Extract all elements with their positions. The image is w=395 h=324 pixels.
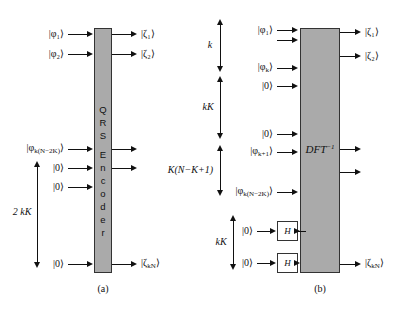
panel-a-output-arrow-5 [131,261,137,267]
panel-a-input-wire-2 [68,54,88,55]
panel-a-input-arrow-2 [87,51,93,57]
panel-a-output-wire-2 [112,54,132,55]
panel-b-h2-in-wire [257,263,271,264]
panel-b-input-arrow-3 [292,83,298,89]
panel-a-input-zero-1: |0⟩ [53,163,64,173]
panel-b-input-arrow-1b [292,37,298,43]
panel-a-output-zeta-1: |ζ₁⟩ [141,29,155,39]
panel-b-brace-kK-upper-line [220,79,221,135]
panel-b-h1-out-arrow [294,228,300,234]
panel-a-brace-2kK-bottom-cap [34,262,40,268]
panel-b-input-wire-1 [277,30,293,31]
panel-a-brace-2kK-line [37,164,38,264]
qrs-encoder-letter-r: r [95,227,111,238]
panel-b-brace-knk1-line [220,148,221,192]
panel-b-output-zeta-kn-sub: kN [371,262,380,270]
panel-b-input-phi-k1-sub: k+1 [258,150,269,158]
panel-a-input-zero-3: |0⟩ [53,259,64,269]
qrs-encoder-letter-R: R [95,117,111,128]
panel-a-input-zero-2: |0⟩ [53,182,64,192]
panel-b-input-zero-1: |0⟩ [262,81,273,91]
panel-a-input-phi-kn2k-sub: k(N−2K) [34,147,60,155]
panel-b-brace-kK-lower-line [233,218,234,266]
panel-a-output-arrow-1 [131,31,137,37]
panel-a-output-zeta-2: |ζ₂⟩ [141,49,155,59]
panel-b-input-arrow-1 [292,27,298,33]
qrs-encoder-letter-Q: Q [95,104,111,115]
panel-b-h2-out-arrow [294,260,300,266]
panel-b-brace-k-bottom-cap [217,66,223,72]
panel-b-input-wire-6 [277,192,293,193]
panel-b-output-wire-4 [340,172,356,173]
panel-a-input-phi-1: |φ₁⟩ [49,29,64,39]
panel-b-output-arrow-1 [355,29,361,35]
panel-a-input-arrow-6 [87,261,93,267]
panel-b-input-zero-h2: |0⟩ [242,258,253,268]
panel-b-output-wire-3 [340,149,356,150]
qrs-encoder-letter-o: o [95,188,111,199]
panel-a-input-wire-5 [68,187,88,188]
panel-b-input-arrow-5 [292,149,298,155]
panel-b-output-zeta-kn: |ζkN⟩ [365,258,384,270]
panel-a-input-wire-1 [68,34,88,35]
panel-b-input-phi-kn2k: |φk(N−2K)⟩ [235,186,273,198]
panel-b-input-wire-3 [277,86,293,87]
hadamard-gate-2-label: H [284,258,291,268]
panel-a-brace-2kK-label: 2 kK [13,207,32,217]
panel-a-output-arrow-4 [131,165,137,171]
panel-a-input-phi-2: |φ₂⟩ [49,49,64,59]
panel-b-input-wire-4 [277,134,293,135]
panel-b-output-arrow-3 [355,146,361,152]
qrs-encoder-letter-d: d [95,201,111,212]
panel-b-output-arrow-5 [355,261,361,267]
panel-b-input-wire-1b [277,40,293,41]
panel-b-brace-kK-upper-label: kK [202,102,213,112]
panel-b-input-arrow-6 [292,189,298,195]
dft-inverse-exponent: −1 [326,143,334,151]
panel-a-caption: (a) [97,283,108,294]
panel-b-h1-in-arrow [270,228,276,234]
panel-b-input-phi-kn2k-sub: k(N−2K) [243,190,269,198]
panel-a-input-wire-4 [68,168,88,169]
panel-a-input-phi-kn2k: |φk(N−2K)⟩ [26,143,64,155]
panel-b-output-wire-5 [340,264,356,265]
panel-a-input-arrow-3 [87,146,93,152]
panel-a-input-arrow-4 [87,165,93,171]
panel-b-input-zero-2: |0⟩ [262,129,273,139]
panel-b-brace-knk1-bottom-cap [217,190,223,196]
panel-b-input-arrow-4 [292,131,298,137]
panel-a-output-arrow-3 [131,146,137,152]
dft-inverse-label: DFT−1 [305,144,334,155]
qrs-encoder-block: Q R S E n c o d e r [94,28,112,273]
panel-a-input-wire-6 [68,264,88,265]
panel-b-input-zero-h1: |0⟩ [242,226,253,236]
panel-b-brace-kK-lower-label: kK [215,237,226,247]
qrs-encoder-letter-S: S [95,130,111,141]
panel-b-brace-k-line [220,22,221,68]
panel-b-input-wire-5 [277,152,293,153]
panel-a-output-wire-4 [112,168,132,169]
panel-b-input-phi-k: |φk⟩ [258,62,273,74]
panel-a-output-zeta-kn: |ζkN⟩ [141,258,160,270]
panel-a-input-wire-3 [68,149,88,150]
panel-b-output-arrow-2 [355,53,361,59]
hadamard-gate-1-label: H [284,226,291,236]
panel-a-output-wire-1 [112,34,132,35]
panel-b-caption: (b) [314,283,326,294]
panel-b-input-phi-k1: |φk+1⟩ [250,146,273,158]
panel-b-h2-in-arrow [270,260,276,266]
panel-b-h1-in-wire [257,231,271,232]
panel-b-input-wire-2 [277,68,293,69]
qrs-encoder-letter-e: e [95,214,111,225]
panel-a-output-arrow-2 [131,51,137,57]
panel-a-output-zeta-kn-sub: kN [147,262,156,270]
panel-b-brace-kK-upper-bottom-cap [217,133,223,139]
qrs-encoder-letter-E: E [95,149,111,160]
panel-b-input-phi-1: |φ₁⟩ [258,25,273,35]
panel-b-output-wire-1 [340,32,356,33]
panel-a-input-arrow-5 [87,184,93,190]
panel-a-input-arrow-1 [87,31,93,37]
panel-a-output-wire-3 [112,149,132,150]
panel-a-output-wire-5 [112,264,132,265]
panel-b-output-zeta-1: |ζ₁⟩ [365,27,379,37]
